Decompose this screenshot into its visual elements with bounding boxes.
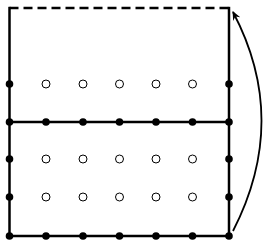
open-vertex-dot bbox=[152, 155, 160, 163]
filled-vertex-dot bbox=[225, 232, 233, 240]
filled-vertex-dot bbox=[189, 232, 197, 240]
filled-vertex-dot bbox=[6, 80, 14, 88]
curved-arrow bbox=[233, 12, 262, 231]
filled-vertex-dot bbox=[79, 118, 87, 126]
filled-vertex-dot bbox=[6, 232, 14, 240]
filled-vertex-dot bbox=[225, 118, 233, 126]
filled-vertex-dot bbox=[42, 118, 50, 126]
open-vertex-dot bbox=[152, 193, 160, 201]
filled-vertex-dot bbox=[6, 155, 14, 163]
filled-vertex-dot bbox=[225, 193, 233, 201]
filled-vertex-dot bbox=[225, 155, 233, 163]
filled-vertex-dot bbox=[152, 232, 160, 240]
filled-vertex-dot bbox=[116, 118, 124, 126]
filled-vertex-dot bbox=[6, 193, 14, 201]
open-vertex-dot bbox=[189, 80, 197, 88]
open-vertex-dot bbox=[189, 155, 197, 163]
open-vertex-dot bbox=[42, 155, 50, 163]
open-vertex-dot bbox=[79, 155, 87, 163]
filled-vertex-dot bbox=[225, 80, 233, 88]
grid-diagram bbox=[0, 0, 272, 247]
filled-vertex-dot bbox=[6, 118, 14, 126]
filled-vertex-dot bbox=[189, 118, 197, 126]
open-vertex-dot bbox=[42, 80, 50, 88]
filled-vertex-dot bbox=[42, 232, 50, 240]
filled-vertex-dot bbox=[79, 232, 87, 240]
open-vertex-dot bbox=[116, 155, 124, 163]
open-vertex-dot bbox=[116, 80, 124, 88]
open-vertex-dot bbox=[189, 193, 197, 201]
open-vertex-dot bbox=[116, 193, 124, 201]
open-vertex-dot bbox=[79, 193, 87, 201]
open-vertex-dot bbox=[42, 193, 50, 201]
open-vertex-dot bbox=[152, 80, 160, 88]
open-vertex-dot bbox=[79, 80, 87, 88]
filled-vertex-dot bbox=[152, 118, 160, 126]
filled-vertex-dot bbox=[116, 232, 124, 240]
